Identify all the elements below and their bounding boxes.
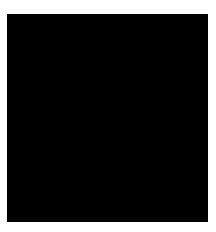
wireframe-illustration: [0, 0, 216, 232]
